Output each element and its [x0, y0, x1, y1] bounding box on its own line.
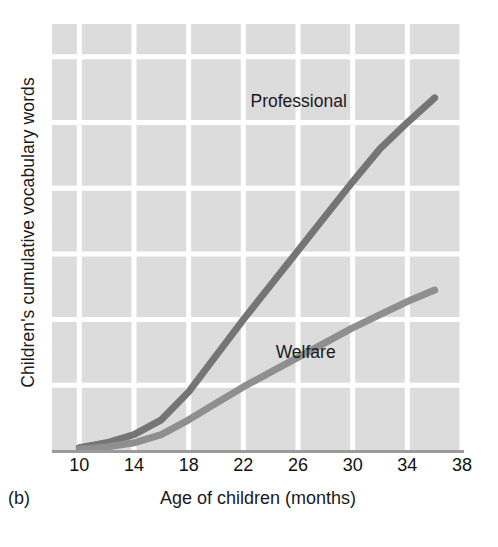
- series-lines: [52, 24, 462, 451]
- plot-area: Professional Welfare: [52, 24, 462, 451]
- x-tick-label: 14: [112, 456, 156, 474]
- x-axis-title: Age of children (months): [52, 488, 464, 509]
- x-tick-labels: 1014182226303438: [0, 456, 498, 484]
- x-tick-label: 22: [221, 456, 265, 474]
- x-tick-label: 34: [385, 456, 429, 474]
- series-label-welfare: Welfare: [276, 342, 336, 363]
- x-tick-label: 38: [440, 456, 484, 474]
- x-tick-label: 10: [57, 456, 101, 474]
- vocabulary-growth-chart: Children's cumulative vocabulary words 1…: [0, 0, 498, 547]
- panel-letter: (b): [8, 488, 30, 509]
- x-axis-line: [52, 450, 464, 453]
- x-tick-label: 18: [167, 456, 211, 474]
- x-tick-label: 26: [276, 456, 320, 474]
- x-tick-label: 30: [331, 456, 375, 474]
- series-label-professional: Professional: [251, 91, 347, 112]
